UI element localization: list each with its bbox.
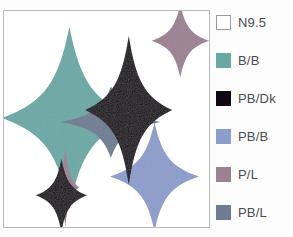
chart-legend: N9.5B/BPB/DkPB/BP/LPB/L [216, 6, 293, 234]
legend-item-label: PB/L [238, 206, 267, 219]
legend-swatch-n95 [216, 15, 231, 30]
legend-item[interactable]: PB/L [216, 202, 267, 222]
legend-item-label: N9.5 [238, 16, 266, 29]
legend-swatch-pb-dk [216, 91, 231, 106]
legend-item[interactable]: PB/B [216, 126, 268, 146]
legend-item-label: PB/Dk [238, 92, 276, 105]
legend-swatch-b-b [216, 53, 231, 68]
legend-item[interactable]: PB/Dk [216, 88, 276, 108]
figure-root: N9.5B/BPB/DkPB/BP/LPB/L [0, 0, 293, 237]
legend-item-label: B/B [238, 54, 260, 67]
legend-swatch-pb-b [216, 129, 231, 144]
legend-item[interactable]: B/B [216, 50, 260, 70]
legend-item-label: PB/B [238, 130, 268, 143]
legend-item[interactable]: N9.5 [216, 12, 266, 32]
star-glyph-canvas [4, 11, 209, 227]
legend-swatch-p-l [216, 167, 231, 182]
legend-item-label: P/L [238, 168, 258, 181]
legend-swatch-pb-l [216, 205, 231, 220]
chart-plot-area [3, 10, 210, 228]
legend-item[interactable]: P/L [216, 164, 258, 184]
